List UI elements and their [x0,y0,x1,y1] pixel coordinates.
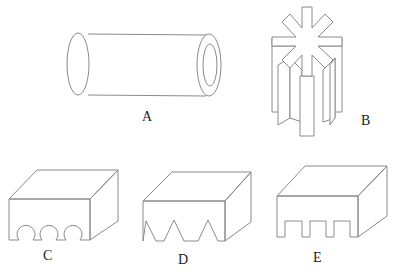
label-c: C [43,248,52,263]
shape-d-block-triangle-notches [143,172,251,241]
label-b: B [361,113,370,128]
label-d: D [178,252,188,267]
shape-e-block-rect-notches [277,166,387,237]
shape-a-cylinder [67,33,221,96]
shape-c-block-round-grooves [9,170,118,240]
label-e: E [313,250,322,265]
figure-canvas: A B C D E [0,0,398,277]
label-a: A [142,109,153,124]
shape-b-star-prism [272,7,342,136]
